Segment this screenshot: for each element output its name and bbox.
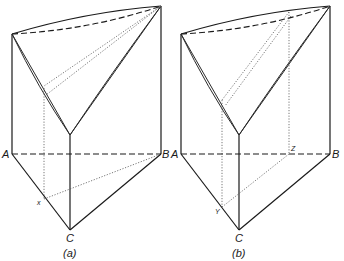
label-c: C — [66, 232, 74, 244]
label-b: B — [332, 148, 339, 160]
top-back-edge — [181, 6, 330, 34]
caption-b: (b) — [232, 247, 246, 259]
base-ac-edge — [12, 154, 70, 230]
figure-a: A B C x (a) — [1, 6, 169, 259]
dotted-ray-2 — [46, 6, 161, 95]
label-a: A — [170, 148, 178, 160]
dotted-ray-2 — [225, 16, 291, 106]
dotted-ray-1 — [44, 6, 161, 86]
prism-diagram: A B C x (a) A B C Y Z (b) — [0, 0, 344, 261]
base-ac-edge — [181, 154, 239, 230]
label-a: A — [1, 148, 9, 160]
caption-a: (a) — [63, 247, 77, 259]
dotted-x-to-b — [44, 154, 161, 199]
label-b: B — [162, 148, 169, 160]
base-bc-edge — [70, 154, 161, 230]
v-left-line-1 — [181, 34, 239, 135]
label-c: C — [235, 232, 243, 244]
top-arc-edge — [181, 6, 330, 34]
top-arc-edge — [12, 6, 161, 34]
label-x: x — [36, 199, 41, 206]
label-y: Y — [215, 208, 221, 215]
top-back-edge — [12, 6, 161, 34]
v-left-line-1 — [12, 34, 70, 135]
label-z: Z — [290, 145, 296, 152]
figure-b: A B C Y Z (b) — [170, 6, 339, 259]
dotted-y-to-z — [222, 154, 289, 207]
base-bc-edge — [239, 154, 330, 230]
